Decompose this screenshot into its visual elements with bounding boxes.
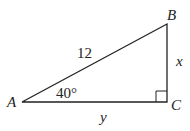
right-angle-marker xyxy=(156,91,167,102)
right-triangle-diagram: B A C 12 x y 40° xyxy=(0,0,190,131)
angle-label-a: 40° xyxy=(56,85,77,101)
vertex-label-b: B xyxy=(167,7,176,23)
vertex-label-a: A xyxy=(6,94,17,110)
triangle xyxy=(22,24,167,102)
side-label-hypotenuse: 12 xyxy=(77,45,92,61)
side-label-x: x xyxy=(175,53,183,69)
vertex-label-c: C xyxy=(171,97,182,113)
side-label-y: y xyxy=(98,109,107,125)
